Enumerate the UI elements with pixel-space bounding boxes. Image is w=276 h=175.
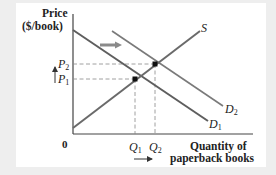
p2-label: P2 [58, 58, 69, 72]
y-axis-title-line2: ($/book) [22, 21, 63, 33]
q2-label: Q2 [149, 141, 162, 155]
x-axis-title-line1: Quantity of [190, 141, 247, 153]
d1-label: D1 [209, 118, 222, 132]
supply-label: S [201, 22, 207, 34]
x-axis-title-line2: paperback books [170, 153, 254, 165]
equilibrium-point-e1 [133, 77, 138, 82]
y-axis-title-line1: Price [42, 8, 68, 20]
demand-shift-arrowhead [115, 42, 122, 49]
origin-label: 0 [62, 139, 68, 150]
equilibrium-point-e2 [153, 62, 158, 67]
p1-label: P1 [58, 73, 69, 87]
q1-label: Q1 [129, 141, 142, 155]
d2-label: D2 [225, 103, 238, 117]
